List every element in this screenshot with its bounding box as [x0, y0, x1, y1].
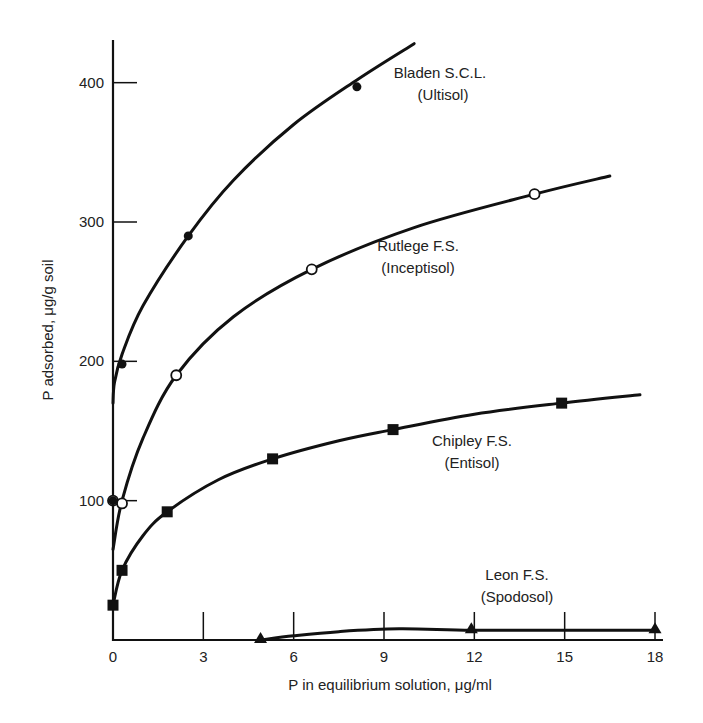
y-tick-label: 300 — [79, 213, 104, 230]
curve-bladen — [113, 44, 414, 403]
x-tick-label: 18 — [647, 648, 664, 665]
axes — [112, 40, 663, 641]
x-tick-label: 12 — [466, 648, 483, 665]
series-label-leon: Leon F.S. — [485, 566, 548, 583]
marker-filled-square-icon — [117, 565, 128, 576]
marker-filled-triangle-icon — [254, 632, 267, 643]
series-label-bladen: Bladen S.C.L. — [394, 64, 487, 81]
x-tick-label: 3 — [199, 648, 207, 665]
marker-filled-square-icon — [162, 506, 173, 517]
x-tick-label: 0 — [109, 648, 117, 665]
marker-open-circle-icon — [171, 370, 181, 380]
marker-open-circle-icon — [117, 498, 127, 508]
marker-filled-circle-icon — [184, 231, 193, 240]
marker-filled-square-icon — [556, 398, 567, 409]
series-label-chipley: Chipley F.S. — [432, 432, 512, 449]
series-sublabel-bladen: (Ultisol) — [418, 86, 469, 103]
marker-open-circle-icon — [307, 264, 317, 274]
marker-filled-triangle-icon — [649, 622, 662, 633]
curve-chipley — [113, 395, 640, 605]
series-sublabel-chipley: (Entisol) — [444, 454, 499, 471]
x-tick-label: 9 — [380, 648, 388, 665]
y-tick-label: 100 — [79, 492, 104, 509]
marker-filled-square-icon — [388, 424, 399, 435]
series-sublabel-rutlege: (Inceptisol) — [381, 259, 454, 276]
marker-filled-circle-icon — [109, 601, 118, 610]
marker-open-circle-icon — [530, 189, 540, 199]
phosphorus-adsorption-chart: 1002003004000369121518 Bladen S.C.L. (Ul… — [0, 0, 703, 723]
y-tick-label: 200 — [79, 352, 104, 369]
axis-ticks: 1002003004000369121518 — [79, 74, 663, 665]
y-tick-label: 400 — [79, 74, 104, 91]
x-tick-label: 6 — [289, 648, 297, 665]
marker-filled-square-icon — [267, 453, 278, 464]
x-tick-label: 15 — [556, 648, 573, 665]
series-sublabel-leon: (Spodosol) — [481, 588, 554, 605]
series-markers — [108, 82, 662, 643]
marker-filled-circle-icon — [352, 82, 361, 91]
series-label-rutlege: Rutlege F.S. — [377, 237, 459, 254]
y-axis-title: P adsorbed, μg/g soil — [39, 260, 56, 401]
series-curves — [113, 44, 655, 640]
series-labels: Bladen S.C.L. (Ultisol) Rutlege F.S. (In… — [377, 64, 553, 605]
x-axis-title: P in equilibrium solution, μg/ml — [288, 676, 491, 693]
marker-filled-triangle-icon — [465, 622, 478, 633]
marker-filled-circle-icon — [118, 360, 127, 369]
curve-leon — [261, 629, 655, 640]
marker-filled-circle-icon — [109, 496, 118, 505]
